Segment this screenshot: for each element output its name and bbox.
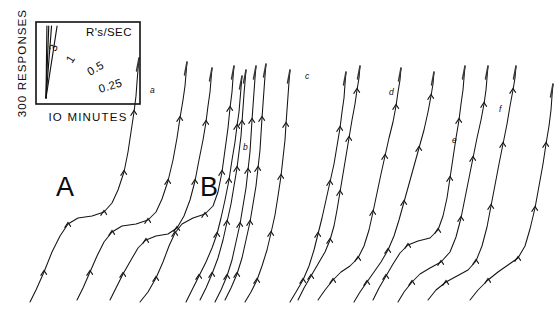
section-labels: AB bbox=[56, 172, 219, 202]
legend-y-axis-label: 300 RESPONSES bbox=[16, 9, 28, 117]
rate-units-label: R's/SEC bbox=[86, 26, 132, 38]
cumulative-trace bbox=[140, 66, 234, 302]
trace-layer bbox=[30, 58, 553, 302]
cumulative-trace bbox=[354, 72, 434, 302]
cumulative-record-figure: R's/SEC 310.50.25 IO MINUTES 300 RESPONS… bbox=[0, 0, 557, 310]
point-label-b: b bbox=[243, 142, 248, 152]
point-label-e: e bbox=[452, 135, 457, 145]
point-label-a: a bbox=[150, 85, 155, 95]
cumulative-trace bbox=[470, 84, 553, 300]
point-label-d: d bbox=[389, 87, 394, 97]
cumulative-trace bbox=[215, 66, 256, 302]
trace-line bbox=[428, 66, 516, 300]
cumulative-trace bbox=[290, 72, 346, 302]
trace-line bbox=[398, 66, 488, 302]
cumulative-trace bbox=[245, 70, 290, 302]
trace-line bbox=[354, 72, 434, 302]
point-label-f: f bbox=[499, 104, 503, 114]
cumulative-trace bbox=[373, 66, 465, 300]
trace-line bbox=[110, 68, 212, 300]
cumulative-trace bbox=[77, 62, 187, 300]
trace-line bbox=[245, 70, 290, 302]
section-label-a: A bbox=[56, 172, 75, 202]
trace-line bbox=[215, 66, 256, 302]
cumulative-trace bbox=[428, 66, 516, 300]
cumulative-record-plot: R's/SEC 310.50.25 IO MINUTES 300 RESPONS… bbox=[0, 0, 557, 310]
rate-label-3: 3 bbox=[46, 42, 60, 52]
trace-line bbox=[373, 66, 465, 300]
rate-label-1: 1 bbox=[64, 53, 78, 65]
trace-line bbox=[290, 72, 346, 302]
cumulative-trace bbox=[110, 68, 212, 300]
cumulative-trace bbox=[318, 68, 401, 300]
rate-line-group bbox=[46, 26, 57, 98]
event-pip bbox=[515, 256, 521, 261]
cumulative-trace bbox=[398, 66, 488, 302]
rate-legend: R's/SEC 310.50.25 IO MINUTES 300 RESPONS… bbox=[16, 9, 140, 123]
rate-label-0.25: 0.25 bbox=[97, 76, 123, 94]
trace-line bbox=[470, 84, 553, 300]
legend-x-axis-label: IO MINUTES bbox=[48, 111, 127, 123]
trace-line bbox=[77, 62, 187, 300]
section-label-b: B bbox=[200, 172, 219, 202]
trace-line bbox=[140, 66, 234, 302]
trace-line bbox=[318, 68, 401, 300]
rate-value-labels: 310.50.25 bbox=[46, 42, 123, 94]
rate-label-0.5: 0.5 bbox=[85, 59, 106, 78]
point-label-c: c bbox=[305, 71, 310, 81]
